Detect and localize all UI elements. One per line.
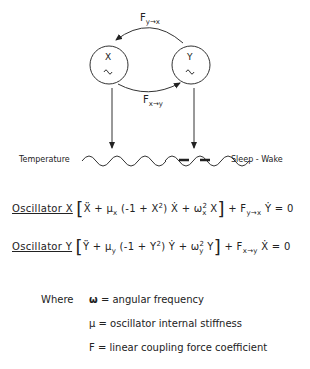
oscillator-x-label: X	[105, 52, 111, 62]
coupling-arrow-x-to-y	[118, 83, 180, 92]
definition-f: F = linear coupling force coefficient	[89, 342, 267, 353]
oscillator-y-label: Y	[187, 52, 193, 62]
wave-icon-y	[186, 70, 194, 74]
temperature-waveform	[82, 156, 166, 166]
equation-oscillator-y: Oscillator Y [Ÿ + μy (-1 + Y2) Ẏ + ω2y Y…	[12, 240, 291, 255]
coupling-arrow-y-to-x	[116, 28, 183, 43]
definition-omega: ω = angular frequency	[89, 294, 204, 305]
sleep-wake-label: Sleep - Wake	[231, 155, 283, 164]
where-label: Where	[41, 294, 73, 305]
wave-icon-x	[104, 70, 112, 74]
coupling-label-x-to-y: Fx→y	[143, 94, 163, 108]
oscillator-diagram	[0, 0, 310, 175]
definition-mu: μ = oscillator internal stiffness	[89, 318, 242, 329]
equation-oscillator-x: Oscillator X [Ẍ + μx (-1 + X2) Ẋ + ω2x X…	[12, 202, 294, 217]
coupling-label-y-to-x: Fy→x	[140, 12, 160, 26]
temperature-label: Temperature	[19, 155, 70, 164]
